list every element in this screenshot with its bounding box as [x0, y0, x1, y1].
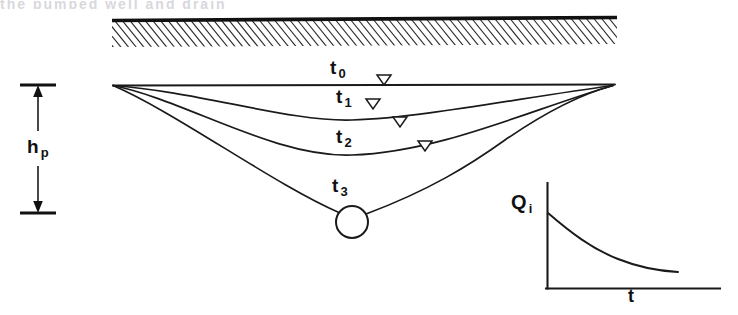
drawdown-curve-t3-left	[113, 86, 340, 214]
ground-surface-group	[82, 18, 665, 51]
drawdown-diagram-figure: the pumped well and drain	[0, 0, 738, 315]
label-t1: t1	[336, 87, 350, 106]
water-table-marker-t1	[366, 99, 380, 109]
label-t3: t3	[332, 176, 346, 195]
inset-decay-curve	[548, 213, 678, 272]
label-inset-t: t	[628, 287, 634, 305]
water-table-marker-t0	[377, 75, 391, 85]
label-t2: t2	[336, 127, 350, 146]
inset-chart-group	[546, 183, 720, 289]
label-t0: t0	[330, 58, 344, 77]
dimension-arrowhead-up	[33, 85, 43, 97]
water-table-line-t0	[113, 85, 615, 86]
drawdown-curve-t1	[113, 86, 613, 121]
water-table-markers-group	[366, 75, 432, 151]
diagram-canvas	[0, 0, 738, 315]
label-inset-q-i: Qi	[511, 192, 530, 212]
label-h-p: hp	[27, 137, 47, 156]
ground-hatching	[82, 18, 665, 50]
dimension-arrowhead-down	[33, 201, 43, 213]
pumping-well-circle	[336, 206, 368, 238]
water-table-marker-t2	[393, 117, 407, 127]
drawdown-curves-group	[113, 86, 613, 215]
